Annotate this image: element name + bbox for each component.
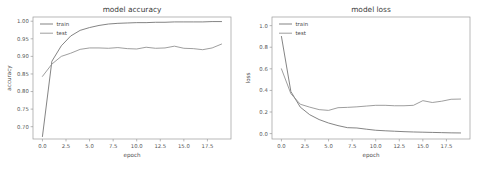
y-tick-label: 0.90 xyxy=(17,53,29,59)
y-tick-label: 0.4 xyxy=(259,87,268,93)
x-tick-label: 5.0 xyxy=(85,143,94,149)
series-line-train xyxy=(281,36,460,133)
series-line-test xyxy=(42,44,221,76)
x-axis-label: epoch xyxy=(123,152,140,159)
x-tick-label: 7.5 xyxy=(109,143,117,149)
chart-title: model accuracy xyxy=(103,5,162,14)
x-tick-label: 12.5 xyxy=(393,143,405,149)
y-tick-label: 0.70 xyxy=(17,124,29,130)
y-tick-label: 1.0 xyxy=(259,23,268,29)
chart-title: model loss xyxy=(351,5,391,14)
x-tick-label: 0.0 xyxy=(38,143,47,149)
y-tick-label: 1.00 xyxy=(17,18,29,24)
model-loss-svg: 0.02.55.07.510.012.515.017.50.00.20.40.6… xyxy=(239,0,477,173)
chart-panel-model-loss: 0.02.55.07.510.012.515.017.50.00.20.40.6… xyxy=(239,0,477,173)
loss-plot-area: 0.02.55.07.510.012.515.017.50.00.20.40.6… xyxy=(245,5,470,160)
x-tick-label: 10.0 xyxy=(370,143,382,149)
model-accuracy-svg: 0.02.55.07.510.012.515.017.50.700.750.80… xyxy=(0,0,238,173)
legend-label-train: train xyxy=(57,21,70,27)
y-tick-label: 0.6 xyxy=(259,66,268,72)
y-tick-label: 0.2 xyxy=(259,109,267,115)
series-line-test xyxy=(281,69,460,111)
x-tick-label: 2.5 xyxy=(62,143,70,149)
accuracy-plot-area: 0.02.55.07.510.012.515.017.50.700.750.80… xyxy=(6,5,231,160)
x-tick-label: 5.0 xyxy=(324,143,333,149)
x-tick-label: 17.5 xyxy=(441,143,453,149)
x-tick-label: 15.0 xyxy=(178,143,190,149)
y-tick-label: 0.80 xyxy=(17,88,29,94)
y-tick-label: 0.0 xyxy=(259,131,268,137)
x-tick-label: 12.5 xyxy=(154,143,166,149)
x-axis-label: epoch xyxy=(362,152,379,159)
x-tick-label: 7.5 xyxy=(348,143,356,149)
legend-label-test: test xyxy=(296,30,306,36)
y-tick-label: 0.8 xyxy=(259,44,268,50)
x-tick-label: 15.0 xyxy=(417,143,429,149)
x-tick-label: 0.0 xyxy=(277,143,286,149)
x-tick-label: 10.0 xyxy=(131,143,143,149)
y-tick-label: 0.85 xyxy=(17,71,29,77)
y-tick-label: 0.75 xyxy=(17,106,29,112)
figure-canvas: 0.02.55.07.510.012.515.017.50.700.750.80… xyxy=(0,0,477,173)
chart-panel-model-accuracy: 0.02.55.07.510.012.515.017.50.700.750.80… xyxy=(0,0,238,173)
x-tick-label: 17.5 xyxy=(202,143,214,149)
y-axis-label: loss xyxy=(245,73,251,84)
legend-label-test: test xyxy=(57,30,67,36)
x-tick-label: 2.5 xyxy=(301,143,309,149)
y-tick-label: 0.95 xyxy=(17,36,29,42)
y-axis-label: accuracy xyxy=(6,65,13,91)
legend-label-train: train xyxy=(296,21,309,27)
series-line-train xyxy=(42,22,221,137)
